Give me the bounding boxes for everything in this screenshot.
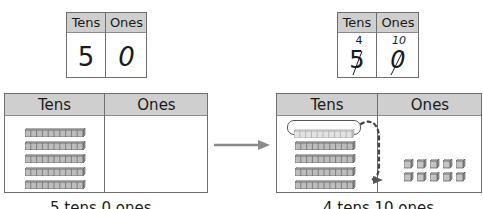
one-cube — [443, 154, 451, 162]
place-value-mat-before: Tens Ones — [4, 93, 208, 193]
ten-rod — [25, 161, 83, 168]
ten-rod — [295, 148, 353, 155]
ten-rod — [295, 161, 353, 168]
one-cube — [404, 167, 412, 175]
one-cube — [417, 154, 425, 162]
place-value-mat-after: Tens Ones — [276, 93, 482, 193]
ten-rod — [25, 148, 83, 155]
tens-rods — [25, 122, 89, 192]
ten-rod — [25, 122, 83, 129]
caption-before: 5 tens 0 ones — [50, 199, 152, 209]
ten-rod — [25, 174, 83, 181]
one-cube — [417, 167, 425, 175]
one-cube — [430, 154, 438, 162]
mat-header-tens: Tens — [277, 96, 377, 114]
one-cube — [456, 154, 464, 162]
mat-header-tens: Tens — [5, 96, 104, 114]
header-ones: Ones — [106, 15, 147, 30]
regroup-dashed-arrow-icon — [357, 118, 397, 188]
ten-rod — [25, 135, 83, 142]
tens-digit: 5 — [67, 42, 105, 72]
ones-digit: 0 — [106, 42, 147, 72]
ten-rod — [295, 135, 353, 142]
one-cube — [443, 167, 451, 175]
header-tens: Tens — [67, 15, 105, 30]
place-value-chart-before: Tens Ones 5 0 — [66, 12, 147, 78]
ones-cubes — [404, 154, 474, 180]
mat-header-ones: Ones — [378, 96, 482, 114]
highlighted-ten-rod — [287, 120, 361, 135]
mat-header-ones: Ones — [105, 96, 208, 114]
one-cube — [430, 167, 438, 175]
place-value-chart-after: Tens Ones 4 10 5 0 — [337, 12, 419, 78]
caption-after: 4 tens 10 ones — [323, 199, 434, 209]
one-cube — [456, 167, 464, 175]
cross-out-marks — [338, 13, 420, 79]
one-cube — [404, 154, 412, 162]
transform-arrow-icon — [212, 139, 272, 151]
ten-rod — [295, 174, 353, 181]
